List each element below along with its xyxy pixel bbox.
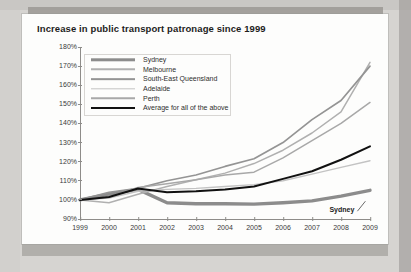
x-tick-1999: 1999 [72,224,88,231]
scan-edge-left [0,0,20,272]
x-tick-mark [370,217,371,221]
legend-swatch-icon [91,103,135,112]
x-tick-mark [167,217,168,221]
x-tick-mark [109,217,110,221]
legend-line-sample [91,58,135,61]
y-tick-90: 90% [50,215,77,222]
y-tick-mark [78,85,82,86]
x-tick-mark [341,217,342,221]
x-tick-2006: 2006 [275,224,291,231]
y-tick-130: 130% [50,139,77,146]
x-tick-2004: 2004 [217,224,233,231]
y-tick-mark [78,161,82,162]
series-line-perth [80,102,370,199]
legend-label: Sydney [143,56,166,63]
x-tick-mark [196,217,197,221]
legend-rows: SydneyMelbourneSouth-East QueenslandAdel… [85,55,230,113]
x-tick-2005: 2005 [246,224,262,231]
scan-edge-right [399,0,411,272]
y-tick-mark [78,104,82,105]
x-tick-mark [254,217,255,221]
legend-label: Melbourne [143,66,176,73]
legend-swatch-icon [91,65,135,74]
legend-item-sydney[interactable]: Sydney [85,55,230,65]
y-tick-mark [78,123,82,124]
legend-swatch-icon [91,74,135,83]
legend-item-adelaide[interactable]: Adelaide [85,84,230,94]
legend-line-sample [91,69,135,71]
x-tick-2008: 2008 [333,224,349,231]
x-tick-2007: 2007 [304,224,320,231]
legend-line-sample [91,88,135,89]
y-tick-mark [78,199,82,200]
x-tick-mark [283,217,284,221]
legend-label: Adelaide [143,85,170,92]
x-tick-mark [225,217,226,221]
legend-item-south-east-queensland[interactable]: South-East Queensland [85,74,230,84]
x-tick-2003: 2003 [188,224,204,231]
legend-label: Perth [143,95,160,102]
x-tick-2002: 2002 [159,224,175,231]
y-tick-160: 160% [50,81,77,88]
scan-band-bottom [22,243,388,256]
y-tick-mark [78,66,82,67]
y-tick-170: 170% [50,62,77,69]
chart-title: Increase in public transport patronage s… [37,23,266,34]
legend-line-sample [91,78,135,80]
chart-legend: SydneyMelbourneSouth-East QueenslandAdel… [84,54,231,116]
y-tick-mark [78,47,82,48]
chart-card: Increase in public transport patronage s… [22,14,388,244]
legend-item-average-for-all-of-the-above[interactable]: Average for all of the above [85,103,230,113]
y-tick-110: 110% [50,177,77,184]
y-tick-mark [78,180,82,181]
annotation-label-sydney: Sydney [329,206,354,213]
legend-swatch-icon [91,94,135,103]
y-tick-120: 120% [50,158,77,165]
screenshot-root: Increase in public transport patronage s… [0,0,411,272]
legend-item-melbourne[interactable]: Melbourne [85,65,230,75]
annotation-leader-line [357,201,365,211]
legend-label: South-East Queensland [143,75,217,82]
x-tick-2009: 2009 [362,224,378,231]
y-tick-100: 100% [50,196,77,203]
x-tick-mark [312,217,313,221]
legend-line-sample [91,97,135,99]
y-tick-140: 140% [50,119,77,126]
x-tick-2001: 2001 [130,224,146,231]
legend-swatch-icon [91,84,135,93]
x-tick-mark [80,217,81,221]
legend-line-sample [91,107,135,109]
y-tick-180: 180% [50,43,77,50]
x-tick-mark [138,217,139,221]
x-tick-2000: 2000 [101,224,117,231]
legend-swatch-icon [91,55,135,64]
legend-label: Average for all of the above [143,104,228,111]
y-tick-150: 150% [50,100,77,107]
y-tick-mark [78,142,82,143]
legend-item-perth[interactable]: Perth [85,93,230,103]
